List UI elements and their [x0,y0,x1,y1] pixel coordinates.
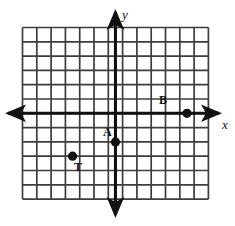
point-label-a: A [103,126,112,138]
coordinate-plane-svg [0,0,235,226]
point-label-b: B [159,94,167,106]
coordinate-grid-figure: y x A B T [0,0,235,226]
x-axis-label: x [222,118,228,131]
point-b-marker[interactable] [182,109,191,118]
point-label-t: T [74,161,82,173]
y-axis-label: y [122,8,128,21]
point-a-marker[interactable] [111,137,120,146]
